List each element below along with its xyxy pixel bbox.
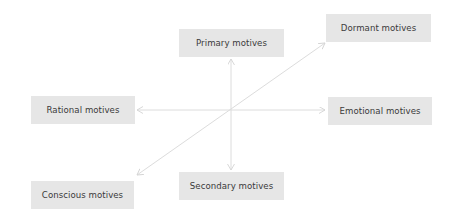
node-emotional-motives: Emotional motives (328, 97, 432, 125)
node-primary-motives: Primary motives (179, 29, 284, 57)
node-label: Emotional motives (340, 106, 421, 116)
node-label: Dormant motives (341, 23, 416, 33)
node-label: Rational motives (47, 105, 120, 115)
node-label: Primary motives (196, 38, 267, 48)
node-secondary-motives: Secondary motives (179, 172, 284, 200)
node-conscious-motives: Conscious motives (31, 181, 134, 209)
node-label: Conscious motives (42, 190, 123, 200)
node-rational-motives: Rational motives (31, 96, 135, 124)
node-label: Secondary motives (190, 181, 273, 191)
node-dormant-motives: Dormant motives (326, 14, 431, 42)
motives-diagram: Primary motives Dormant motives Rational… (0, 0, 453, 224)
